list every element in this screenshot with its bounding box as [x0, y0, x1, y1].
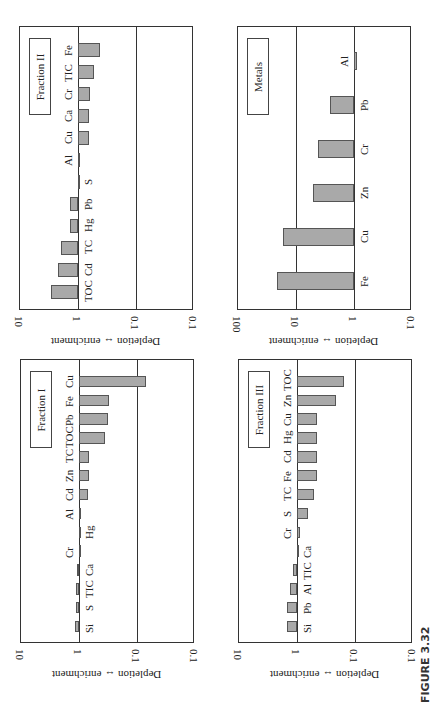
category-label: Cr	[358, 144, 370, 155]
tick-label: 10	[13, 316, 25, 327]
chart-panel-fraction-i: Fraction ISiSTICCaCrHgAlCdZnTCTOCPbFeCu1…	[20, 359, 194, 643]
bar-pb	[330, 96, 354, 114]
category-label: Cr	[281, 528, 293, 539]
bar-pb	[79, 413, 108, 424]
bar-cd	[297, 451, 317, 462]
bar-cu	[78, 131, 89, 144]
bar-toc	[51, 285, 78, 298]
category-label: TC	[63, 449, 75, 463]
chart-panel-metals: MetalsFeCuZnCrPbAl1001010.1Depletion ↔ e…	[237, 26, 411, 310]
category-label: Fe	[281, 471, 293, 482]
bar-si	[287, 621, 297, 632]
bar-s	[76, 602, 79, 613]
bar-tic	[76, 583, 79, 594]
tick-label: 0.1	[405, 316, 417, 330]
category-label: Zn	[358, 187, 370, 199]
bar-tc	[61, 241, 78, 254]
bar-cr	[318, 140, 354, 158]
tick-label: 1	[347, 316, 359, 322]
legend-label: Fraction I	[35, 388, 47, 431]
plot-frame: Fraction IIISiPbAlTICCaCrSTCFeCdHgCuZnTO…	[238, 359, 412, 643]
category-label: Si	[301, 624, 313, 633]
bar-al	[78, 153, 80, 166]
figure-caption: FIGURE 3.32	[419, 626, 432, 703]
bar-pb	[287, 602, 297, 613]
plot-frame: MetalsFeCuZnCrPbAl	[237, 26, 411, 310]
category-label: Ca	[83, 564, 95, 576]
legend-box: Metals	[247, 38, 269, 115]
tick-label: 0.1	[406, 649, 418, 663]
category-label: Zn	[281, 394, 293, 406]
tick-label: 0.1	[187, 316, 199, 330]
bar-hg	[79, 527, 81, 538]
bar-cr	[79, 545, 81, 556]
axis-label: Depletion ↔ enrichment	[51, 336, 160, 348]
axis-label: Depletion ↔ enrichment	[270, 669, 379, 681]
category-label: Al	[301, 584, 313, 595]
category-label: Cd	[281, 450, 293, 463]
legend-box: Fraction I	[30, 371, 52, 448]
bar-al	[79, 508, 81, 519]
tick-label: 100	[231, 316, 243, 333]
tick-label: 1	[72, 649, 84, 655]
axis-label: Depletion ↔ enrichment	[52, 669, 161, 681]
gridline	[137, 360, 138, 642]
bar-cu	[283, 228, 354, 246]
chart-panel-fraction-ii: Fraction IITOCCdTCHgPbSAlCuCaCrTICFe1010…	[19, 26, 193, 310]
category-label: Pb	[301, 602, 313, 614]
bar-cd	[79, 489, 88, 500]
category-label: Al	[63, 509, 75, 520]
bar-fe	[78, 43, 100, 56]
tick-label: 10	[232, 649, 244, 660]
bar-fe	[277, 272, 354, 290]
tick-label: 0.1	[348, 649, 360, 663]
tick-label: 0.1	[130, 649, 142, 663]
bar-s	[297, 508, 308, 519]
bar-cr	[78, 87, 90, 100]
tick-label: 10	[14, 649, 26, 660]
bar-fe	[297, 470, 317, 481]
chart-panel-fraction-iii: Fraction IIISiPbAlTICCaCrSTCFeCdHgCuZnTO…	[238, 359, 412, 643]
gridline	[136, 27, 137, 309]
legend-box: Fraction III	[248, 371, 270, 448]
category-label: Al	[62, 155, 74, 166]
bar-zn	[297, 395, 336, 406]
bar-cr	[297, 527, 300, 538]
bar-cu	[79, 376, 146, 387]
category-label: TIC	[62, 64, 74, 82]
bar-al	[354, 52, 357, 70]
category-label: Pb	[82, 199, 94, 211]
category-label: Cd	[63, 488, 75, 501]
tick-label: 0.1	[129, 316, 141, 330]
bar-al	[290, 583, 297, 594]
category-label: TC	[82, 240, 94, 254]
bar-toc	[79, 432, 105, 443]
gridline	[355, 360, 356, 642]
plot-frame: Fraction ISiSTICCaCrHgAlCdZnTCTOCPbFeCu	[20, 359, 194, 643]
bar-s	[78, 175, 80, 188]
bar-tc	[79, 451, 89, 462]
category-label: TIC	[301, 562, 313, 580]
bar-hg	[297, 432, 317, 443]
bar-tic	[78, 65, 94, 78]
category-label: Fe	[62, 45, 74, 56]
category-label: Hg	[83, 525, 95, 538]
category-label: S	[83, 605, 95, 611]
legend-label: Metals	[252, 62, 264, 92]
category-label: TOC	[82, 280, 94, 302]
category-label: S	[281, 511, 293, 517]
category-label: Hg	[82, 219, 94, 232]
tick-label: 1	[71, 316, 83, 322]
legend-label: Fraction II	[34, 53, 46, 100]
bar-zn	[313, 184, 354, 202]
category-label: TIC	[83, 581, 95, 599]
category-label: Hg	[281, 431, 293, 444]
category-label: TOC	[281, 369, 293, 391]
category-label: TC	[281, 487, 293, 501]
bar-zn	[79, 470, 89, 481]
axis-label: Depletion ↔ enrichment	[269, 336, 378, 348]
category-label: Al	[338, 56, 350, 67]
category-label: Ca	[62, 110, 74, 122]
bar-cd	[58, 263, 78, 276]
category-label: S	[82, 179, 94, 185]
